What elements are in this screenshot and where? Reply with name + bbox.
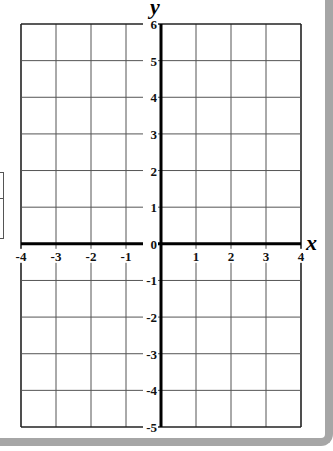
y-tick-label: 6 bbox=[151, 17, 158, 32]
y-tick-label: -5 bbox=[146, 420, 157, 435]
y-tick-labels: 6543210-1-2-3-4-5 bbox=[143, 17, 158, 435]
x-tick-label: -3 bbox=[51, 249, 62, 264]
axes bbox=[21, 24, 301, 427]
y-tick-label: 3 bbox=[151, 127, 158, 142]
y-tick-label: -2 bbox=[146, 310, 157, 325]
y-tick-label: 4 bbox=[151, 90, 158, 105]
y-tick-label: 1 bbox=[151, 200, 158, 215]
x-tick-label: -1 bbox=[121, 249, 132, 264]
y-tick-label: -3 bbox=[146, 347, 157, 362]
y-axis-label: y bbox=[147, 0, 160, 19]
y-tick-label: -1 bbox=[146, 273, 157, 288]
x-axis-label: x bbox=[305, 230, 317, 255]
x-tick-label: 3 bbox=[263, 249, 270, 264]
coordinate-grid: -4-3-2-11234 6543210-1-2-3-4-5 x y bbox=[0, 0, 333, 451]
x-tick-label: 2 bbox=[228, 249, 235, 264]
x-tick-label: -4 bbox=[16, 249, 27, 264]
y-tick-label: -4 bbox=[146, 383, 157, 398]
x-tick-label: 1 bbox=[193, 249, 200, 264]
x-tick-label: -2 bbox=[86, 249, 97, 264]
y-tick-label: 2 bbox=[151, 164, 158, 179]
y-tick-label: 0 bbox=[151, 237, 158, 252]
y-tick-label: 5 bbox=[151, 54, 158, 69]
